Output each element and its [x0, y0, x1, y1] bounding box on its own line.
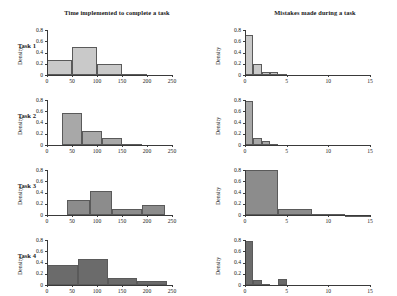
y-axis-line	[245, 30, 246, 75]
histogram-panel-task-4-mistakes: 00.20.40.60.8051015DensityNumber of erro…	[245, 240, 370, 285]
y-axis-tick-label: 0.8	[23, 97, 43, 103]
y-axis-line	[47, 170, 48, 215]
histogram-bar	[253, 138, 261, 145]
y-axis-tick-label: 0	[221, 142, 241, 148]
y-axis-line	[47, 100, 48, 145]
x-axis-tick-label: 100	[87, 288, 107, 294]
x-axis-tick	[147, 145, 148, 147]
y-axis-tick-label: 0.8	[221, 27, 241, 33]
x-axis-tick-label: 150	[112, 218, 132, 224]
y-axis-tick	[45, 134, 47, 135]
x-axis-tick	[328, 285, 329, 287]
x-axis-tick-label: 0	[37, 148, 57, 154]
y-axis-tick	[243, 111, 245, 112]
y-axis-label: Density	[17, 186, 23, 204]
y-axis-tick	[243, 100, 245, 101]
y-axis-tick-label: 0.8	[221, 167, 241, 173]
histogram-bar	[245, 35, 253, 75]
histogram-bar	[102, 138, 122, 145]
y-axis-tick-label: 0	[23, 212, 43, 218]
histogram-panel-task-3-time: 00.20.40.60.8050100150200250Density	[47, 170, 172, 215]
histogram-panel-task-1-mistakes: 00.20.40.60.8051015Density	[245, 30, 370, 75]
x-axis-tick-label: 5	[277, 288, 297, 294]
x-axis-line	[47, 285, 172, 286]
x-axis-tick-label: 150	[112, 78, 132, 84]
y-axis-tick	[243, 181, 245, 182]
histogram-panel-task-4-time: 00.20.40.60.8050100150200250DensityTime …	[47, 240, 172, 285]
histogram-figure-grid: Time implemented to complete a task Mist…	[0, 0, 397, 296]
x-axis-tick-label: 5	[277, 218, 297, 224]
y-axis-tick-label: 0.6	[221, 248, 241, 254]
x-axis-tick-label: 100	[87, 218, 107, 224]
x-axis-tick-label: 100	[87, 148, 107, 154]
y-axis-tick-label: 0.6	[221, 38, 241, 44]
histogram-bar	[245, 101, 253, 145]
y-axis-tick	[243, 251, 245, 252]
y-axis-tick-label: 0	[23, 72, 43, 78]
y-axis-tick-label: 0.6	[23, 108, 43, 114]
y-axis-tick	[243, 204, 245, 205]
x-axis-tick-label: 250	[162, 78, 182, 84]
y-axis-tick	[243, 123, 245, 124]
y-axis-tick	[45, 240, 47, 241]
x-axis-tick	[97, 285, 98, 287]
x-axis-tick-label: 0	[235, 148, 255, 154]
x-axis-tick-label: 150	[112, 148, 132, 154]
x-axis-tick	[147, 285, 148, 287]
histogram-bar	[47, 60, 72, 75]
y-axis-tick	[243, 41, 245, 42]
histogram-bar	[108, 278, 137, 285]
y-axis-tick-label: 0.2	[23, 200, 43, 206]
x-axis-tick	[47, 215, 48, 217]
y-axis-tick	[45, 123, 47, 124]
y-axis-line	[245, 170, 246, 215]
histogram-bar	[253, 64, 261, 75]
histogram-bar	[245, 241, 253, 285]
x-axis-tick	[47, 285, 48, 287]
x-axis-tick	[72, 215, 73, 217]
y-axis-tick-label: 0	[23, 142, 43, 148]
x-axis-tick	[328, 215, 329, 217]
x-axis-tick	[72, 285, 73, 287]
x-axis-line	[245, 75, 370, 76]
y-axis-tick-label: 0.8	[23, 237, 43, 243]
histogram-bar	[67, 200, 90, 215]
y-axis-line	[245, 100, 246, 145]
y-axis-tick	[45, 181, 47, 182]
x-axis-tick-label: 250	[162, 148, 182, 154]
y-axis-label: Density	[215, 46, 221, 64]
y-axis-tick-label: 0.8	[23, 167, 43, 173]
x-axis-tick	[172, 285, 173, 287]
y-axis-tick	[45, 41, 47, 42]
y-axis-label: Density	[17, 116, 23, 134]
histogram-bar	[47, 265, 78, 285]
y-axis-tick	[45, 263, 47, 264]
x-axis-line	[245, 145, 370, 146]
x-axis-tick	[147, 215, 148, 217]
x-axis-tick-label: 50	[62, 78, 82, 84]
x-axis-tick	[287, 75, 288, 77]
y-axis-tick-label: 0.4	[221, 189, 241, 195]
y-axis-tick-label: 0.2	[221, 200, 241, 206]
x-axis-tick	[122, 215, 123, 217]
y-axis-tick-label: 0.2	[221, 270, 241, 276]
y-axis-tick	[243, 240, 245, 241]
x-axis-tick-label: 50	[62, 288, 82, 294]
histogram-bar	[245, 170, 278, 215]
x-axis-tick-label: 50	[62, 148, 82, 154]
y-axis-tick	[243, 170, 245, 171]
x-axis-tick	[370, 285, 371, 287]
histogram-panel-task-2-mistakes: 00.20.40.60.8051015Density	[245, 100, 370, 145]
y-axis-label: Density	[215, 116, 221, 134]
x-axis-tick	[328, 145, 329, 147]
y-axis-label: Density	[215, 256, 221, 274]
x-axis-tick-label: 15	[360, 148, 380, 154]
y-axis-tick-label: 0.8	[221, 237, 241, 243]
histogram-bar	[72, 47, 97, 75]
y-axis-tick	[45, 30, 47, 31]
x-axis-tick-label: 0	[235, 78, 255, 84]
x-axis-tick	[328, 75, 329, 77]
x-axis-tick-label: 0	[235, 218, 255, 224]
x-axis-tick	[122, 285, 123, 287]
histogram-panel-task-3-mistakes: 00.20.40.60.8051015Density	[245, 170, 370, 215]
